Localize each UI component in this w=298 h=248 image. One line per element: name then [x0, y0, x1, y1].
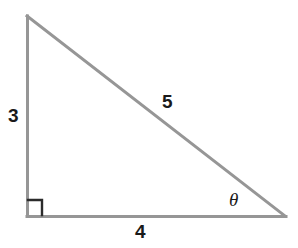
triangle-drawing	[0, 0, 298, 248]
angle-label-theta: θ	[229, 190, 238, 209]
right-angle-marker-icon	[28, 200, 42, 215]
side-label-horizontal-leg: 4	[135, 222, 146, 241]
hypotenuse-line	[27, 16, 285, 216]
side-label-vertical-leg: 3	[8, 106, 19, 125]
right-triangle-figure: 3 5 4 θ	[0, 0, 298, 248]
side-label-hypotenuse: 5	[162, 92, 173, 111]
